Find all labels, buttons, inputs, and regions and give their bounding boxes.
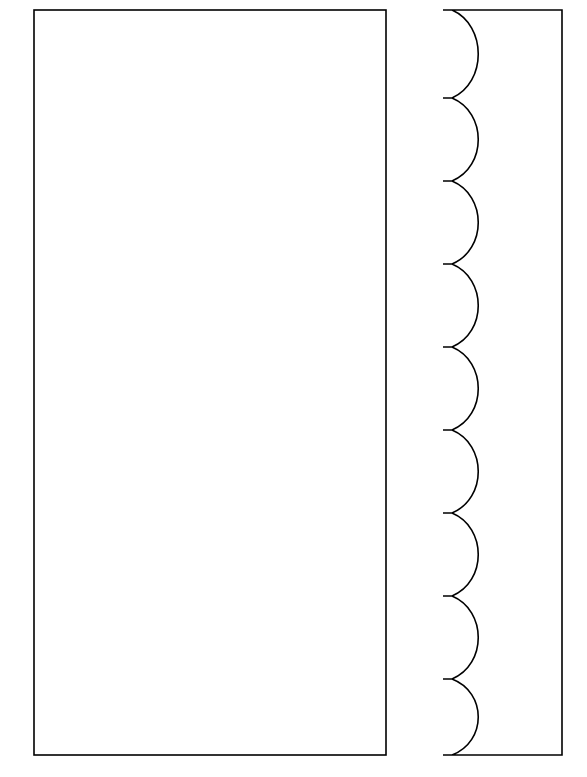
plain-rectangle-outline xyxy=(34,10,386,755)
figure-canvas: Scalloped edge pattern pair Two black ou… xyxy=(0,0,587,777)
plain-rectangle xyxy=(34,10,386,755)
